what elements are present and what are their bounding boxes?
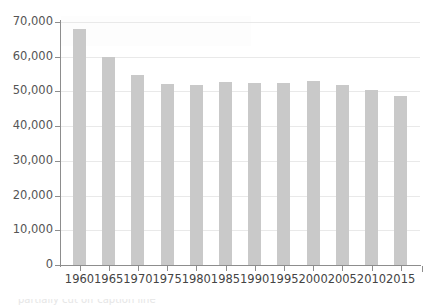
y-axis-tick — [55, 265, 61, 266]
x-axis-tick — [401, 266, 402, 271]
bar — [394, 96, 407, 265]
plot-area — [61, 22, 420, 265]
y-axis-tick — [55, 91, 61, 92]
bar — [73, 29, 86, 265]
bar — [336, 85, 349, 266]
y-axis-label: 20,000 — [0, 190, 53, 202]
y-axis-label: 40,000 — [0, 120, 53, 132]
x-axis-tick — [255, 266, 256, 271]
bar — [131, 75, 144, 265]
gridline — [61, 22, 420, 23]
x-axis-label: 2015 — [381, 274, 421, 286]
y-axis-tick — [55, 196, 61, 197]
y-axis-tick — [55, 22, 61, 23]
bar — [219, 82, 232, 265]
x-axis-tick — [284, 266, 285, 271]
y-axis-tick — [55, 126, 61, 127]
bar — [161, 84, 174, 265]
x-axis-tick — [138, 266, 139, 271]
bar — [277, 83, 290, 265]
x-axis-tick — [80, 266, 81, 271]
y-axis-label: 50,000 — [0, 85, 53, 97]
y-axis-tick — [55, 161, 61, 162]
clipped-caption: partially cut off caption line — [18, 299, 228, 305]
x-axis-line — [60, 265, 421, 266]
bar — [365, 90, 378, 265]
x-axis-tick — [109, 266, 110, 271]
y-axis-label: 30,000 — [0, 155, 53, 167]
x-axis-tick — [372, 266, 373, 271]
bar — [307, 81, 320, 265]
bar — [248, 83, 261, 265]
bar — [102, 57, 115, 265]
y-axis-tick — [55, 57, 61, 58]
x-axis-end-tick — [422, 266, 423, 272]
x-axis-tick — [226, 266, 227, 271]
bar-chart: 010,00020,00030,00040,00050,00060,00070,… — [0, 0, 433, 305]
x-axis-tick — [342, 266, 343, 271]
y-axis-label: 0 — [0, 259, 53, 271]
bar — [190, 85, 203, 265]
x-axis-tick — [196, 266, 197, 271]
y-axis-label: 70,000 — [0, 16, 53, 28]
y-axis-label: 60,000 — [0, 51, 53, 63]
x-axis-tick — [313, 266, 314, 271]
x-axis-tick — [167, 266, 168, 271]
y-axis-label: 10,000 — [0, 224, 53, 236]
y-axis-tick — [55, 230, 61, 231]
clipped-caption-text: partially cut off caption line — [18, 299, 228, 305]
